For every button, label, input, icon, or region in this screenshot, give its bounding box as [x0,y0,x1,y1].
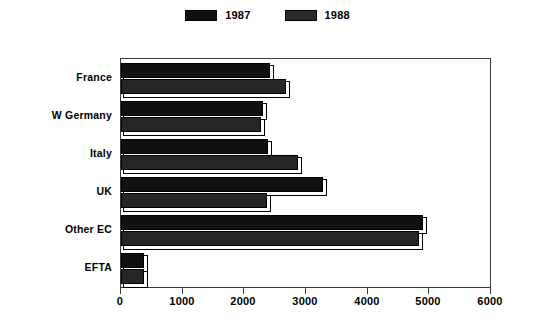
category-label-france: France [0,72,112,83]
x-axis-tick-labels: 0 1000 2000 3000 4000 5000 6000 [0,296,535,312]
bar-france-1987 [121,63,270,78]
x-tick-1000 [182,288,183,294]
x-tick-label-5000: 5000 [415,296,440,307]
bar-w-germany-1987 [121,101,263,116]
legend-label-1987: 1987 [225,10,250,21]
bar-italy-1988 [121,155,298,170]
x-tick-label-0: 0 [117,296,123,307]
x-tick-6000 [490,288,491,294]
bars-layer [121,59,491,287]
x-tick-label-6000: 6000 [477,296,502,307]
bar-france-1988 [121,79,286,94]
legend-entry-1987: 1987 [185,10,250,21]
y-axis-category-labels: France W Germany Italy UK Other EC EFTA [0,58,112,288]
legend-label-1988: 1988 [325,10,350,21]
x-tick-label-1000: 1000 [169,296,194,307]
x-tick-4000 [367,288,368,294]
category-label-efta: EFTA [0,262,112,273]
x-tick-label-4000: 4000 [354,296,379,307]
bar-uk-1988 [121,193,267,208]
bar-w-germany-1988 [121,117,261,132]
x-tick-2000 [243,288,244,294]
bar-italy-1987 [121,139,268,154]
chart-legend: 1987 1988 [0,10,535,21]
category-label-uk: UK [0,186,112,197]
legend-entry-1988: 1988 [285,10,350,21]
bar-other-ec-1988 [121,231,419,246]
x-tick-3000 [305,288,306,294]
bar-efta-1988 [121,269,144,284]
x-axis-ticks [120,288,491,294]
bar-uk-1987 [121,177,323,192]
bar-efta-1987 [121,253,144,268]
legend-swatch-1988-icon [285,10,317,21]
x-tick-0 [120,288,121,294]
category-label-w-germany: W Germany [0,110,112,121]
bar-other-ec-1987 [121,215,423,230]
legend-swatch-1987-icon [185,10,217,21]
category-label-italy: Italy [0,148,112,159]
x-tick-5000 [428,288,429,294]
x-tick-label-3000: 3000 [292,296,317,307]
category-label-other-ec: Other EC [0,224,112,235]
x-tick-label-2000: 2000 [230,296,255,307]
bar-chart: 1987 1988 France W Germany Italy UK Othe… [0,0,535,327]
